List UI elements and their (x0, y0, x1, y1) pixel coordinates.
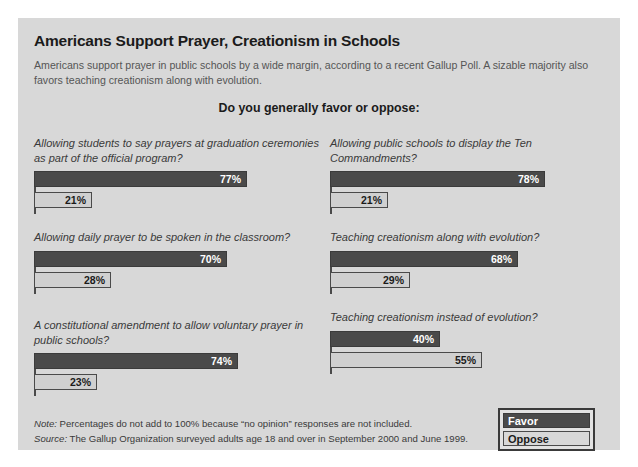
bar-value-label: 21% (361, 195, 382, 206)
bar-group: 40%55% (330, 331, 618, 368)
chart-panel: Americans Support Prayer, Creationism in… (18, 18, 620, 450)
bar-oppose: 28% (34, 272, 111, 288)
legend-label-oppose: Oppose (508, 433, 549, 445)
bar-value-label: 21% (65, 195, 86, 206)
footnote-source-text: The Gallup Organization surveyed adults … (67, 433, 468, 444)
question-label: A constitutional amendment to allow volu… (34, 318, 322, 347)
footnote-note-text: Percentages do not add to 100% because “… (57, 418, 412, 429)
question-label: Allowing public schools to display the T… (330, 136, 618, 165)
legend-label-favor: Favor (508, 415, 538, 427)
question-label: Teaching creationism along with evolutio… (330, 230, 618, 245)
bar-favor: 40% (330, 331, 440, 347)
footnote-source: Source: The Gallup Organization surveyed… (34, 431, 494, 446)
bar-value-label: 23% (70, 377, 91, 388)
bar-favor: 70% (34, 251, 227, 267)
bar-value-label: 28% (84, 274, 105, 285)
footnote-note: Note: Percentages do not add to 100% bec… (34, 416, 494, 431)
question-grid: Allowing students to say prayers at grad… (18, 18, 620, 450)
bar-value-label: 29% (383, 274, 404, 285)
question-block: Teaching creationism instead of evolutio… (330, 310, 618, 373)
legend-item-favor: Favor (503, 413, 590, 428)
chart-legend: Favor Oppose (498, 408, 595, 451)
question-block: Allowing students to say prayers at grad… (34, 136, 322, 213)
bar-value-label: 77% (220, 174, 241, 185)
bar-group: 68%29% (330, 251, 618, 288)
bar-group: 70%28% (34, 251, 322, 288)
bar-oppose: 55% (330, 352, 482, 368)
bar-value-label: 40% (413, 333, 434, 344)
question-block: Allowing daily prayer to be spoken in th… (34, 230, 322, 293)
legend-item-oppose: Oppose (503, 431, 590, 446)
bar-value-label: 55% (455, 354, 476, 365)
bar-oppose: 21% (34, 192, 92, 208)
bar-value-label: 78% (518, 174, 539, 185)
footnote-source-label: Source: (34, 433, 67, 444)
bar-oppose: 29% (330, 272, 410, 288)
bar-group: 78%21% (330, 171, 618, 208)
question-block: Teaching creationism along with evolutio… (330, 230, 618, 293)
question-label: Teaching creationism instead of evolutio… (330, 310, 618, 325)
bar-group: 74%23% (34, 353, 322, 390)
bar-oppose: 23% (34, 374, 97, 390)
bar-group: 77%21% (34, 171, 322, 208)
bar-value-label: 70% (200, 253, 221, 264)
bar-value-label: 68% (491, 253, 512, 264)
bar-favor: 68% (330, 251, 518, 267)
footnote-note-label: Note: (34, 418, 57, 429)
bar-favor: 74% (34, 353, 238, 369)
bar-value-label: 74% (211, 356, 232, 367)
question-label: Allowing students to say prayers at grad… (34, 136, 322, 165)
chart-footnotes: Note: Percentages do not add to 100% bec… (34, 416, 494, 446)
bar-favor: 78% (330, 171, 545, 187)
bar-favor: 77% (34, 171, 247, 187)
question-label: Allowing daily prayer to be spoken in th… (34, 230, 322, 245)
question-block: A constitutional amendment to allow volu… (34, 318, 322, 395)
bar-oppose: 21% (330, 192, 388, 208)
question-block: Allowing public schools to display the T… (330, 136, 618, 213)
